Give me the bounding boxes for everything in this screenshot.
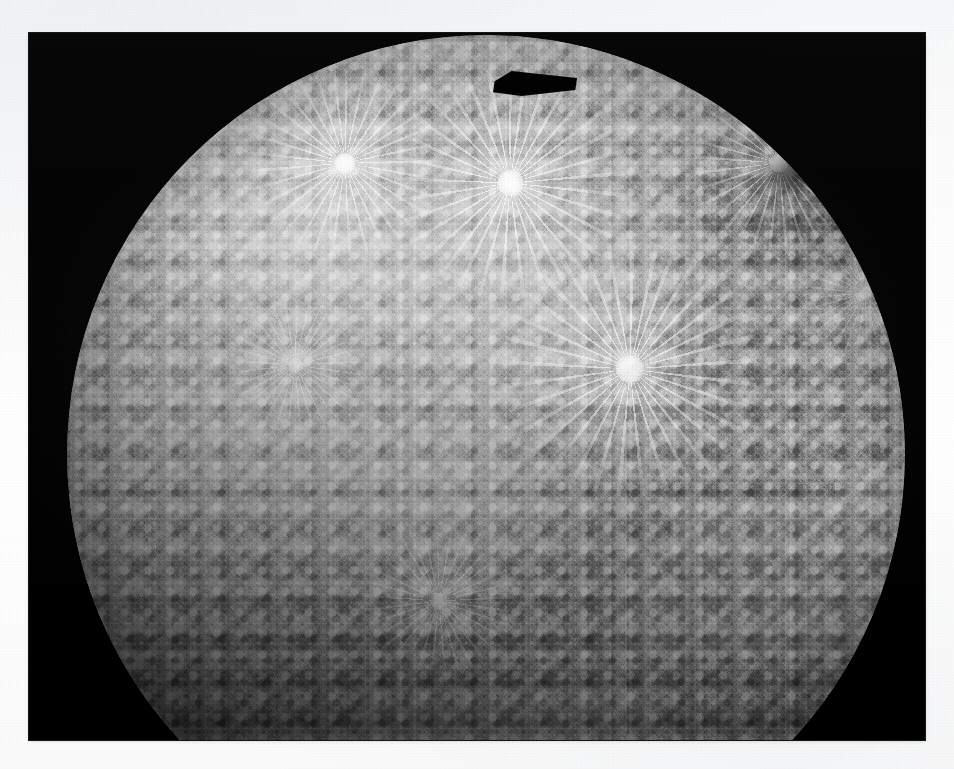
- scanned-photo-sheet: [0, 0, 954, 769]
- mercury-disk: [67, 35, 905, 740]
- photograph-frame: [29, 33, 925, 740]
